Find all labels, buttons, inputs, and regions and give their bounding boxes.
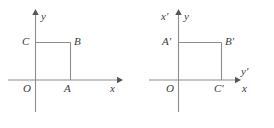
x-axis-arrow-icon: [235, 77, 241, 83]
left-coordinate-figure: y x O A B C: [0, 0, 137, 128]
origin-label: O: [166, 83, 174, 94]
y-axis-label: y: [41, 11, 46, 22]
right-coordinate-figure: x' y y' x O A' B' C': [137, 0, 274, 128]
x-primed-axis-label: x': [161, 11, 168, 22]
diagram-page: y x O A B C x' y y' x O A' B' C': [0, 0, 274, 128]
y-axis-arrow-icon: [175, 9, 181, 15]
point-b-primed-label: B': [225, 36, 234, 47]
right-figure-svg: [137, 0, 274, 128]
point-c-label: C: [22, 36, 29, 47]
point-c-primed-label: C': [214, 83, 224, 94]
y-axis-label: y: [184, 11, 189, 22]
x-axis-label: x: [110, 83, 115, 94]
y-primed-axis-label: y': [241, 66, 248, 77]
x-axis-label: x: [242, 83, 247, 94]
x-axis-arrow-icon: [117, 77, 123, 83]
point-a-label: A: [64, 83, 71, 94]
y-axis-arrow-icon: [32, 9, 38, 15]
left-figure-svg: [0, 0, 137, 128]
point-b-label: B: [74, 36, 81, 47]
origin-label: O: [23, 83, 31, 94]
point-a-primed-label: A': [162, 36, 171, 47]
